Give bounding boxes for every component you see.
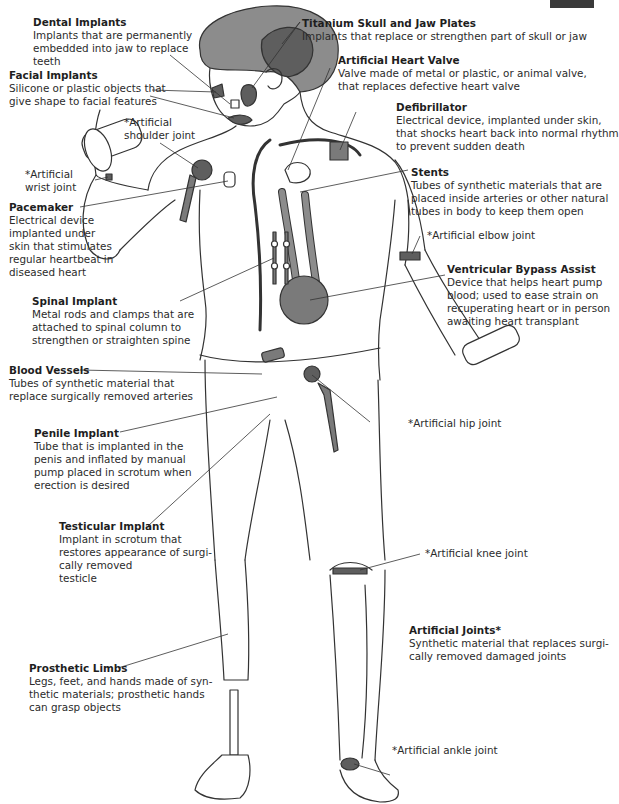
label-desc: Implant in scrotum that restores appeara… <box>59 533 212 585</box>
label-hip-joint: *Artificial hip joint <box>408 417 501 430</box>
label-title: Artificial Heart Valve <box>338 54 587 67</box>
label-title: Ventricular Bypass Assist <box>447 263 610 276</box>
dental-implant-icon <box>231 100 239 108</box>
label-artificial-joints: Artificial Joints* Synthetic material th… <box>409 624 609 663</box>
label-elbow-joint: *Artificial elbow joint <box>427 229 535 242</box>
label-testicular-implant: Testicular Implant Implant in scrotum th… <box>59 520 212 585</box>
label-title: Pacemaker <box>9 201 113 214</box>
label-desc: Metal rods and clamps that are attached … <box>32 308 194 347</box>
label-knee-joint: *Artificial knee joint <box>425 547 528 560</box>
label-desc: Tubes of synthetic materials that are pl… <box>411 179 608 218</box>
label-dental-implants: Dental Implants Implants that are perman… <box>33 16 192 68</box>
label-desc: Legs, feet, and hands made of syn- theti… <box>29 675 212 714</box>
label-shoulder-joint: *Artificial shoulder joint <box>124 116 195 142</box>
spinal-implant-icon <box>272 232 290 284</box>
label-desc: Implants that replace or strengthen part… <box>302 30 587 43</box>
prosthetic-pylon <box>230 690 238 755</box>
knee-joint-icon <box>333 568 367 574</box>
label-ventricular-bypass: Ventricular Bypass Assist Device that he… <box>447 263 610 328</box>
penile-pump-icon <box>261 347 285 362</box>
torso-right <box>379 200 396 380</box>
chin-implant-icon <box>228 115 252 124</box>
defibrillator-icon <box>330 142 348 160</box>
label-desc: Implants that are permanently embedded i… <box>33 29 192 68</box>
dumbbell-right <box>460 323 522 367</box>
jaw-plate-icon <box>241 85 256 106</box>
waist-line <box>200 348 380 362</box>
left-inner-thigh <box>245 420 270 560</box>
neck-right <box>300 92 410 215</box>
label-desc: Silicone or plastic objects that give sh… <box>9 82 166 108</box>
label-title: Artificial Joints* <box>409 624 609 637</box>
right-shin <box>330 570 385 760</box>
ankle-joint-icon <box>341 758 359 770</box>
label-title: Testicular Implant <box>59 520 212 533</box>
label-title: Titanium Skull and Jaw Plates <box>302 17 587 30</box>
label-desc: Tubes of synthetic material that replace… <box>9 377 193 403</box>
label-stents: Stents Tubes of synthetic materials that… <box>411 166 608 218</box>
label-title: Stents <box>411 166 608 179</box>
label-title: Blood Vessels <box>9 364 193 377</box>
prosthetic-foot <box>195 755 250 799</box>
right-fibula <box>362 585 367 758</box>
label-desc: Electrical device implanted under skin t… <box>9 214 113 279</box>
label-prosthetic-limbs: Prosthetic Limbs Legs, feet, and hands m… <box>29 662 212 714</box>
label-wrist-joint: *Artificial wrist joint <box>25 168 76 194</box>
label-title: Dental Implants <box>33 16 192 29</box>
label-title: Prosthetic Limbs <box>29 662 212 675</box>
artery-tube <box>253 140 270 330</box>
label-blood-vessels: Blood Vessels Tubes of synthetic materia… <box>9 364 193 403</box>
label-penile-implant: Penile Implant Tube that is implanted in… <box>34 427 192 492</box>
shoulder-stem <box>180 175 196 222</box>
label-defibrillator: Defibrillator Electrical device, implant… <box>396 101 619 153</box>
label-spinal-implant: Spinal Implant Metal rods and clamps tha… <box>32 295 194 347</box>
label-title: Penile Implant <box>34 427 192 440</box>
label-desc: Electrical device, implanted under skin,… <box>396 114 619 153</box>
label-facial-implants: Facial Implants Silicone or plastic obje… <box>9 69 166 108</box>
label-pacemaker: Pacemaker Electrical device implanted un… <box>9 201 113 279</box>
torso-left <box>199 190 206 360</box>
label-desc: Valve made of metal or plastic, or anima… <box>338 67 587 93</box>
label-ankle-joint: *Artificial ankle joint <box>392 744 498 757</box>
pacemaker-icon <box>224 172 235 187</box>
label-desc: Synthetic material that replaces surgi- … <box>409 637 609 663</box>
heart-valve-icon <box>285 163 310 183</box>
label-heart-valve: Artificial Heart Valve Valve made of met… <box>338 54 587 93</box>
right-thigh <box>378 380 385 560</box>
label-desc: Tube that is implanted in the penis and … <box>34 440 192 492</box>
label-title: Facial Implants <box>9 69 166 82</box>
right-inner-thigh <box>285 420 310 560</box>
label-desc: Device that helps heart pump blood; used… <box>447 276 610 328</box>
label-titanium-skull: Titanium Skull and Jaw Plates Implants t… <box>302 17 587 43</box>
label-title: Defibrillator <box>396 101 619 114</box>
prosthetic-socket <box>215 560 249 680</box>
label-title: Spinal Implant <box>32 295 194 308</box>
elbow-joint-icon <box>400 252 420 260</box>
